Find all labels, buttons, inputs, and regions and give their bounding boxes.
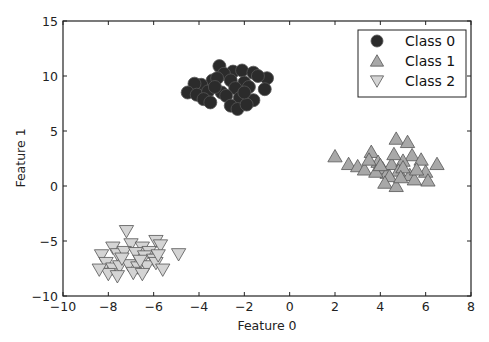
legend: Class 0Class 1Class 2 xyxy=(358,30,466,97)
x-axis-label: Feature 0 xyxy=(237,318,296,333)
series-class-2 xyxy=(92,226,186,283)
triangle-down-marker xyxy=(119,226,133,238)
scatter-chart: −10−8−6−4−202468−10−5051015 Feature 0 Fe… xyxy=(0,0,489,342)
circle-marker xyxy=(204,96,217,109)
y-tick-label: 10 xyxy=(42,69,58,84)
triangle-up-marker xyxy=(405,148,419,160)
x-tick-label: 0 xyxy=(286,299,294,314)
triangle-down-marker xyxy=(135,268,149,280)
series-class-0 xyxy=(181,60,273,116)
triangle-up-marker xyxy=(430,157,444,169)
circle-marker xyxy=(251,70,264,83)
circle-marker xyxy=(240,98,253,111)
triangle-up-marker xyxy=(389,132,403,144)
y-tick-label: 0 xyxy=(50,179,58,194)
triangle-down-marker xyxy=(171,249,185,261)
y-tick-label: 15 xyxy=(42,14,58,29)
triangle-down-marker xyxy=(156,264,170,276)
triangle-down-marker xyxy=(110,271,124,283)
triangle-up-marker xyxy=(387,147,401,159)
triangle-up-marker xyxy=(400,135,414,147)
y-tick-label: 5 xyxy=(50,124,58,139)
triangle-up-marker xyxy=(328,150,342,162)
triangle-up-marker xyxy=(364,145,378,157)
legend-label: Class 1 xyxy=(405,53,455,69)
circle-marker xyxy=(236,64,249,77)
circle-marker xyxy=(238,86,251,99)
circle-marker xyxy=(258,83,271,96)
x-tick-label: 4 xyxy=(376,299,384,314)
x-tick-label: 8 xyxy=(467,299,475,314)
legend-label: Class 0 xyxy=(405,33,455,49)
x-tick-label: −4 xyxy=(190,299,208,314)
x-tick-label: 6 xyxy=(422,299,430,314)
x-tick-label: −8 xyxy=(99,299,117,314)
circle-marker xyxy=(371,35,383,47)
y-tick-label: −5 xyxy=(40,234,58,249)
x-tick-label: −6 xyxy=(144,299,162,314)
series-class-1 xyxy=(328,132,444,192)
legend-label: Class 2 xyxy=(405,73,455,89)
x-tick-label: −2 xyxy=(235,299,253,314)
circle-marker xyxy=(208,81,221,94)
y-tick-label: −10 xyxy=(32,289,58,304)
y-axis-label: Feature 1 xyxy=(13,128,28,187)
x-tick-label: 2 xyxy=(331,299,339,314)
